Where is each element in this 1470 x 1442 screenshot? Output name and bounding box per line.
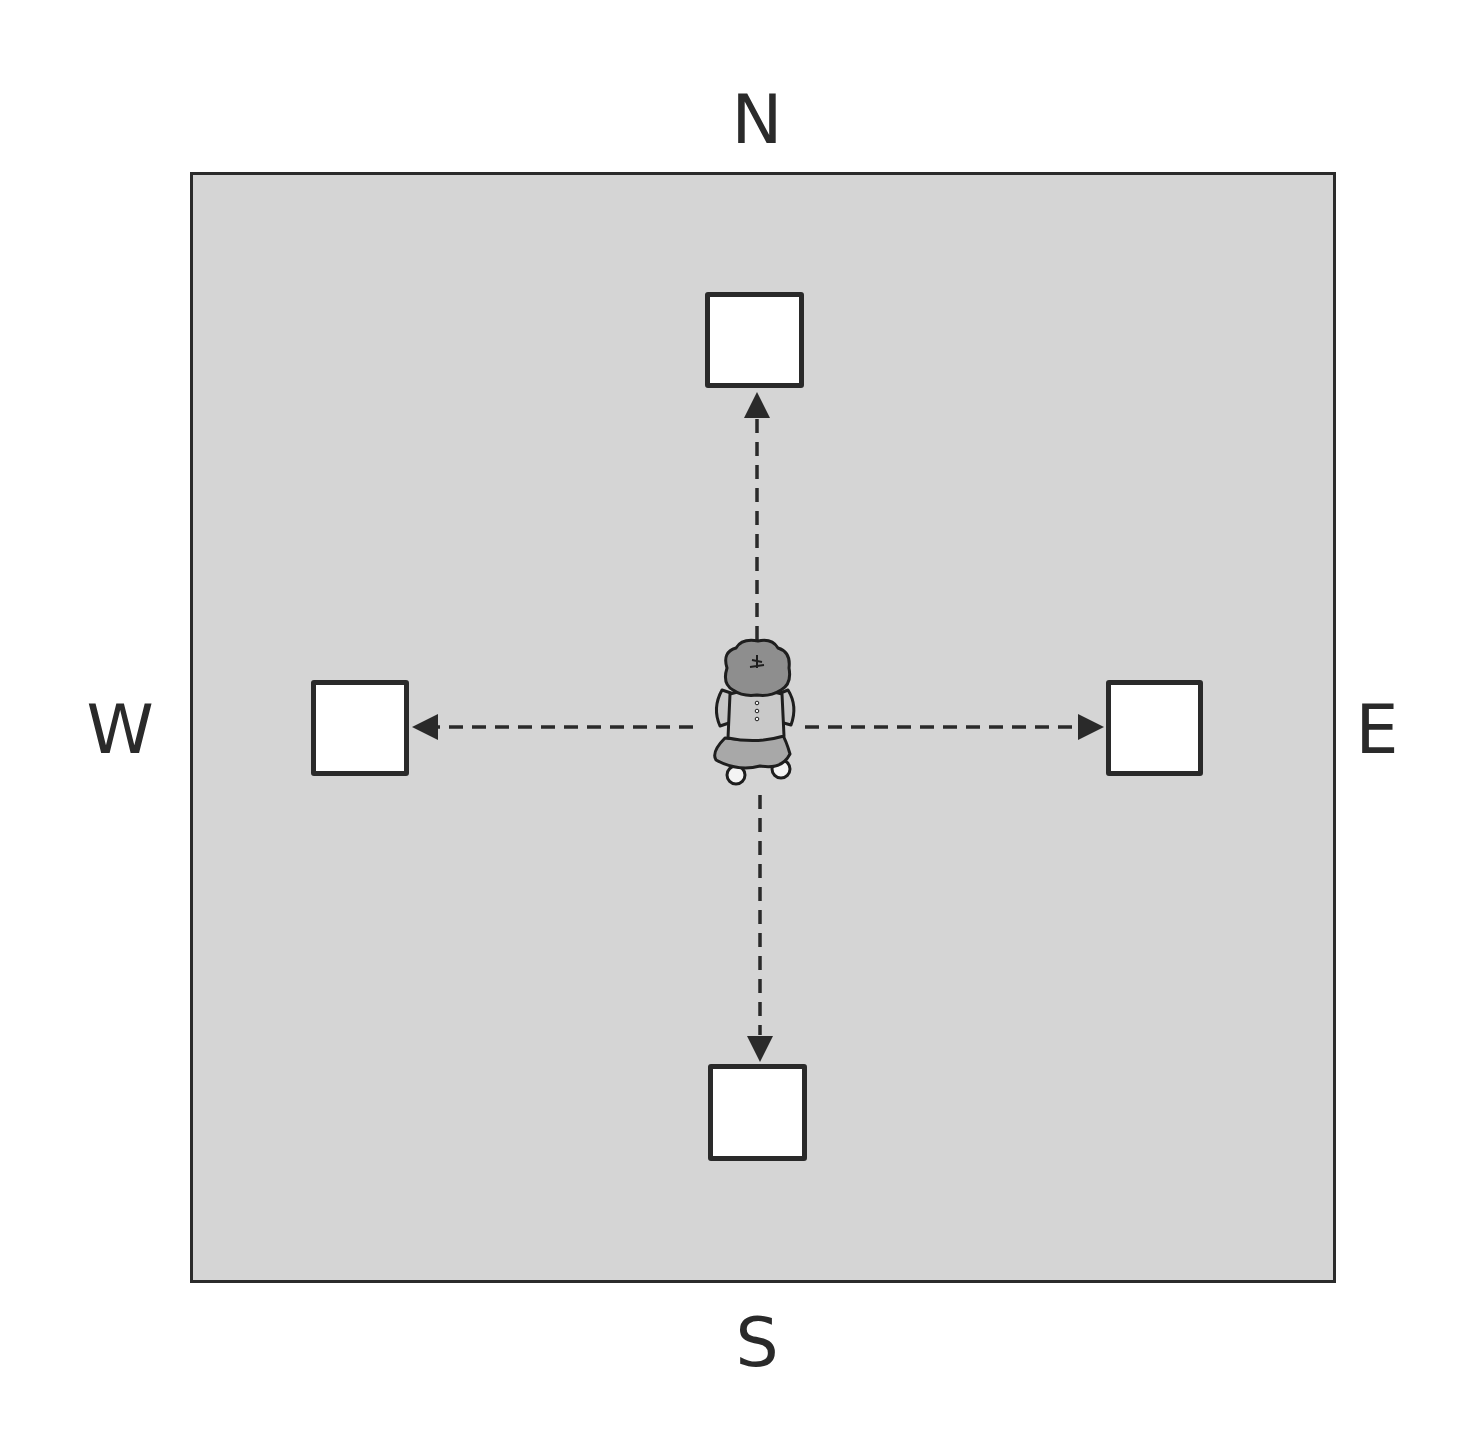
arrow-east-head-icon: [1078, 714, 1104, 740]
arrow-west-head-icon: [412, 714, 438, 740]
arrows-layer: [0, 0, 1470, 1442]
arrow-north-head-icon: [744, 392, 770, 418]
child-top-view-icon: [715, 640, 794, 784]
arrow-south-head-icon: [747, 1036, 773, 1062]
